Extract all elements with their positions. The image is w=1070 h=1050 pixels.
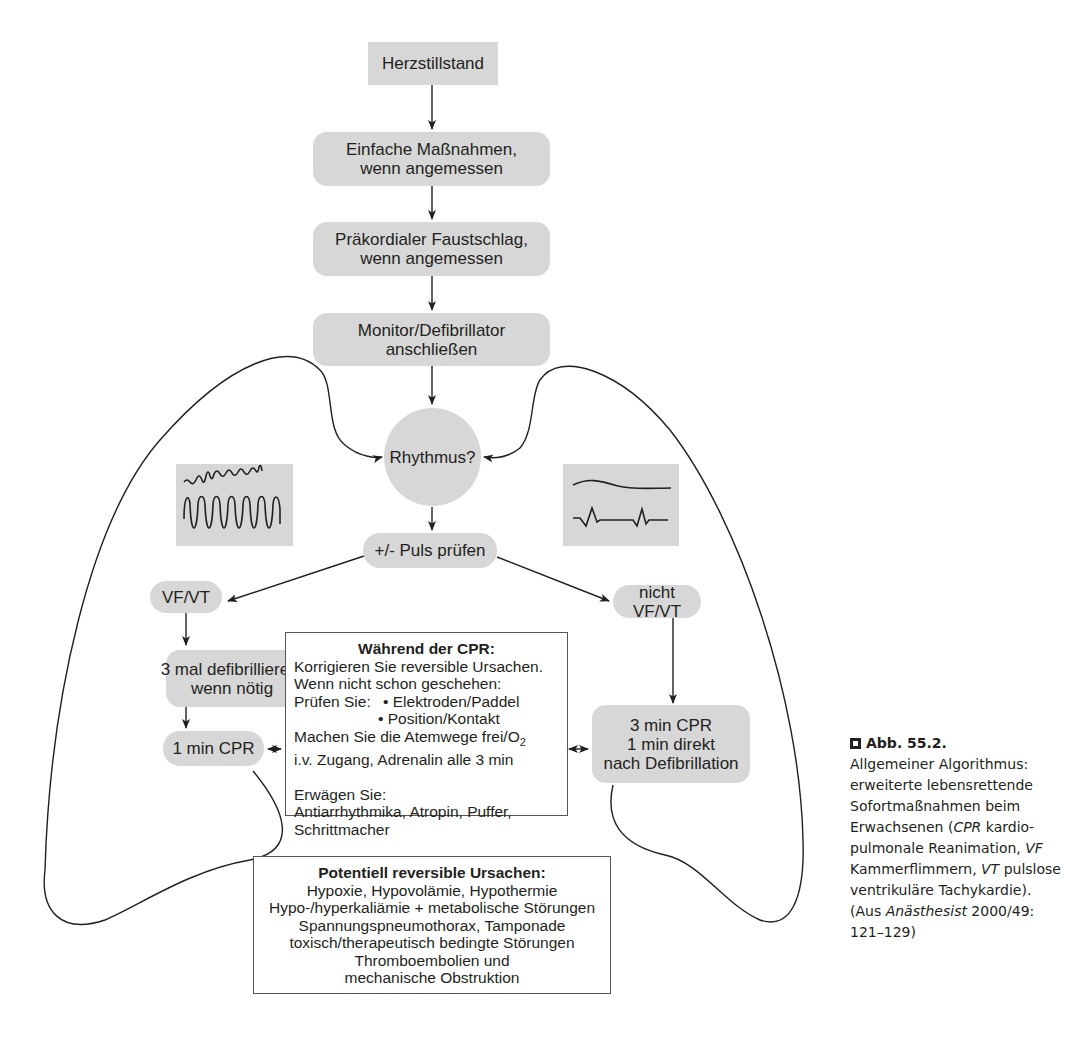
node-label: nicht VF/VT [613,583,701,621]
node-label: Herzstillstand [382,54,484,73]
check-item: • Position/Kontakt [294,710,561,728]
ecg-vf-vt-icon [176,464,293,546]
during-cpr-line: i.v. Zugang, Adrenalin alle 3 min [294,751,561,769]
node-label: VF/VT [162,588,210,607]
node-label-line-3: nach Defibrillation [603,754,738,773]
caption-abbr: VT [981,861,999,877]
node-label: Rhythmus? [390,448,476,467]
node-precordial-thump: Präkordialer Faustschlag, wenn angemesse… [313,222,550,276]
during-cpr-line: Machen Sie die Atemwege frei/O2 [294,728,561,752]
ecg-waveform-icon [176,464,293,546]
during-cpr-line: Wenn nicht schon geschehen: [294,675,561,693]
reversible-causes-title: Potentiell reversible Ursachen: [258,864,606,882]
arrow-pulse-to-nonvfvt [497,557,609,601]
node-cpr-1min: 1 min CPR [163,731,264,766]
caption-abbr: CPR [953,819,981,835]
during-cpr-line: Prüfen Sie: • Elektroden/Paddel [294,693,561,711]
caption-segment: Kammerflimmern, [850,861,981,877]
node-label-line-1: Einfache Maßnahmen, [346,140,517,159]
during-cpr-line: Korrigieren Sie reversible Ursachen. [294,658,561,676]
airway-text: Machen Sie die Atemwege frei/O [294,728,520,745]
cause-line: Spannungspneumothorax, Tamponade [258,917,606,935]
caption-source-journal: Anästhesist [886,903,967,919]
cause-line: Hypoxie, Hypovolämie, Hypothermie [258,882,606,900]
ecg-waveform-icon [563,464,679,546]
check-item: • Elektroden/Paddel [383,693,519,710]
node-label-line-2: 1 min direkt [627,735,715,754]
during-cpr-line: Schrittmacher [294,821,561,839]
arrow-pulse-to-vfvt [228,556,364,601]
node-label-line-1: 3 min CPR [630,716,712,735]
figure-marker-icon [850,738,861,749]
node-label-line-1: Monitor/Defibrillator [358,321,505,340]
spacer [294,769,561,786]
node-cardiac-arrest: Herzstillstand [368,42,498,85]
check-label: Prüfen Sie: [294,693,371,710]
figure-caption: Abb. 55.2. Allgemeiner Algorithmus: erwe… [850,733,1065,943]
node-defibrillate: 3 mal defibrillieren, wenn nötig [166,650,298,707]
node-label-line-1: Präkordialer Faustschlag, [335,230,528,249]
during-cpr-title: Während der CPR: [292,640,561,658]
during-cpr-box: Während der CPR: Korrigieren Sie reversi… [285,632,568,816]
figure-label: Abb. 55.2. [850,733,1065,754]
cause-line: Hypo-/hyperkaliämie + metabolische Störu… [258,899,606,917]
node-simple-measures: Einfache Maßnahmen, wenn angemessen [313,132,550,186]
node-non-vf-vt: nicht VF/VT [613,585,701,618]
node-label: +/- Puls prüfen [374,541,485,560]
node-label-line-2: anschließen [386,340,478,359]
during-cpr-line: Antiarrhythmika, Atropin, Puffer, [294,803,561,821]
node-pulse-check: +/- Puls prüfen [363,533,497,568]
node-label: 1 min CPR [172,739,254,758]
node-monitor-defibrillator: Monitor/Defibrillator anschließen [313,313,550,366]
figure-number: Abb. 55.2. [866,733,947,754]
node-label-line-1: 3 mal defibrillieren, [161,660,304,679]
cause-line: Thromboembolien und [258,952,606,970]
ecg-asystole-pea-icon [563,464,679,546]
cause-line: toxisch/therapeutisch bedingte Störungen [258,934,606,952]
node-vf-vt: VF/VT [150,581,222,613]
reversible-causes-box: Potentiell reversible Ursachen: Hypoxie,… [253,856,611,994]
caption-text: Allgemeiner Algorithmus: erweiterte lebe… [850,754,1065,943]
cause-line: mechanische Obstruktion [258,969,606,987]
caption-abbr: VF [1025,840,1043,856]
node-label-line-2: wenn nötig [191,679,273,698]
subscript: 2 [520,736,526,748]
during-cpr-line: Erwägen Sie: [294,786,561,804]
node-rhythm-decision: Rhythmus? [384,408,481,506]
node-label-line-2: wenn angemessen [360,249,503,268]
node-cpr-3min: 3 min CPR 1 min direkt nach Defibrillati… [592,705,750,783]
node-label-line-2: wenn angemessen [360,159,503,178]
